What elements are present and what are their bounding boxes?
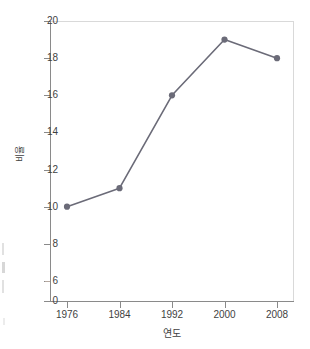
y-axis-title: 비율	[15, 139, 26, 169]
data-point-1992: 1992: 16	[169, 92, 175, 98]
data-point-1976: 1976: 10	[64, 204, 70, 210]
data-point-2008: 2008: 18	[274, 55, 280, 61]
data-point-1984: 1984: 11	[116, 185, 122, 191]
x-axis-title: 연도	[50, 328, 294, 340]
chart-figure: 068101214161820 19761984199220002008 197…	[0, 0, 310, 349]
data-point-2000: 2000: 19	[221, 36, 227, 42]
data-series-layer: 1976: 101984: 111992: 162000: 192008: 18	[0, 0, 310, 349]
series-line	[67, 40, 277, 207]
